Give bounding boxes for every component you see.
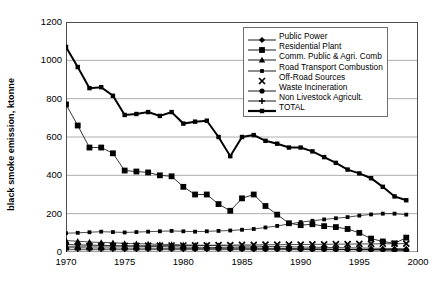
marker-square-bold [298, 145, 302, 149]
marker-small-square [135, 230, 139, 234]
legend-item[interactable]: Off-Road Sources [247, 72, 383, 82]
marker-plus [368, 247, 374, 252]
marker-square-bold [181, 121, 185, 125]
x-tick-label: 2000 [398, 256, 438, 268]
marker-square-bold [369, 176, 373, 180]
marker-small-square [181, 229, 185, 233]
legend-item[interactable]: Waste Incineration [247, 82, 383, 92]
marker-square [157, 172, 163, 178]
legend-item[interactable]: Residential Plant [247, 41, 383, 51]
series-line [66, 214, 406, 234]
marker-small-square [99, 230, 103, 234]
marker-small-square [393, 212, 397, 216]
marker-small-square [334, 216, 338, 220]
y-tick-label: 200 [18, 209, 62, 219]
marker-square [169, 173, 175, 179]
marker-small-square [311, 219, 315, 223]
legend-symbol [247, 41, 277, 51]
legend-label: Road Transport Combustion [277, 62, 383, 72]
x-tick-label: 1975 [105, 256, 145, 268]
marker-square-bold [193, 119, 197, 123]
x-tick-label: 1990 [281, 256, 321, 268]
marker-square-bold [357, 171, 361, 175]
y-tick-label: 800 [18, 94, 62, 104]
series-line [66, 104, 406, 243]
marker-square [251, 192, 257, 198]
marker-square-bold [76, 65, 80, 69]
marker-small-square [158, 229, 162, 233]
marker-triangle [66, 237, 69, 243]
marker-small-square [240, 228, 244, 232]
marker-square-bold [99, 85, 103, 89]
marker-square-bold [134, 112, 138, 116]
marker-square [134, 169, 140, 175]
marker-square [239, 195, 245, 201]
y-tick-label: 1000 [18, 55, 62, 65]
marker-plus [356, 247, 362, 252]
marker-square-bold [111, 94, 115, 98]
marker-square [122, 168, 128, 174]
marker-small-square [193, 230, 197, 234]
marker-square-bold [334, 161, 338, 165]
marker-square-bold [404, 198, 408, 202]
marker-small-square [111, 230, 115, 234]
marker-small-square [88, 230, 92, 234]
legend-symbol [247, 31, 277, 41]
marker-square-bold [345, 167, 349, 171]
marker-square-bold [146, 110, 150, 114]
marker-square-bold [216, 135, 220, 139]
marker-square-bold [240, 135, 244, 139]
marker-small-square [404, 213, 408, 217]
legend-label: Waste Incineration [277, 82, 347, 92]
legend-item[interactable]: Comm. Public & Agri. Comb [247, 51, 383, 61]
marker-square-bold [252, 133, 256, 137]
marker-small-square [369, 213, 373, 217]
marker-square-bold [169, 110, 173, 114]
y-tick-label: 400 [18, 170, 62, 180]
legend-label: Public Power [277, 31, 327, 41]
y-tick-label: 600 [18, 132, 62, 142]
marker-small-square [381, 212, 385, 216]
marker-square [227, 208, 233, 214]
legend-symbol [247, 102, 277, 112]
x-tick-label: 1980 [163, 256, 203, 268]
marker-square [98, 145, 104, 151]
legend-item[interactable]: Public Power [247, 31, 383, 41]
marker-square [333, 224, 339, 230]
legend-item[interactable]: Non Livestock Agricult. [247, 92, 383, 102]
legend-label: Comm. Public & Agri. Comb [277, 51, 382, 61]
legend-symbol [247, 82, 277, 92]
marker-small-square [357, 214, 361, 218]
marker-small-square [299, 220, 303, 224]
x-tick-label: 1970 [46, 256, 86, 268]
marker-square-bold [66, 45, 68, 49]
marker-square-bold [228, 154, 232, 158]
marker-square-bold [287, 145, 291, 149]
legend-item[interactable]: Road Transport Combustion [247, 62, 383, 72]
marker-small-square [205, 229, 209, 233]
legend-label: Residential Plant [277, 41, 341, 51]
marker-small-square [66, 231, 68, 235]
marker-square-bold [275, 142, 279, 146]
y-tick-label: 1200 [18, 17, 62, 27]
x-tick-label: 1995 [339, 256, 379, 268]
marker-plus [380, 247, 386, 252]
marker-small-square [264, 226, 268, 230]
marker-square-bold [205, 119, 209, 123]
legend-symbol [247, 62, 277, 72]
marker-small-square [275, 224, 279, 228]
marker-square [75, 123, 81, 129]
marker-small-square [170, 229, 174, 233]
legend-label: TOTAL [277, 102, 305, 112]
marker-square [66, 102, 69, 108]
marker-square-bold [310, 149, 314, 153]
marker-square [204, 192, 210, 198]
marker-small-square [123, 231, 127, 235]
marker-square [110, 150, 116, 156]
marker-square-bold [260, 109, 264, 113]
legend-symbol [247, 72, 277, 82]
legend-item[interactable]: TOTAL [247, 102, 383, 112]
legend-symbol [247, 92, 277, 102]
marker-square [145, 170, 151, 176]
legend-label: Non Livestock Agricult. [277, 92, 363, 102]
